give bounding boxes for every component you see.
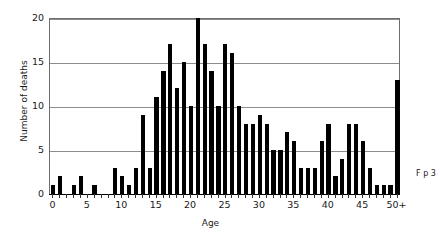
x-tick <box>266 194 267 198</box>
bar <box>203 44 207 194</box>
bar <box>127 185 131 194</box>
x-tick <box>314 194 315 198</box>
x-tick <box>321 194 322 198</box>
bar <box>196 18 200 194</box>
bar <box>299 168 303 194</box>
x-tick <box>190 194 191 198</box>
x-tick <box>176 194 177 198</box>
x-tick <box>280 194 281 198</box>
x-tick <box>231 194 232 198</box>
bar <box>72 185 76 194</box>
x-tick <box>87 194 88 198</box>
bar <box>375 185 379 194</box>
bar <box>306 168 310 194</box>
x-tick <box>335 194 336 198</box>
bar <box>361 141 365 194</box>
x-tick <box>307 194 308 198</box>
y-tick-label: 0 <box>18 189 44 199</box>
bar <box>223 44 227 194</box>
y-tick-label: 15 <box>18 57 44 67</box>
x-tick <box>163 194 164 198</box>
bar <box>354 124 358 194</box>
x-tick <box>218 194 219 198</box>
x-tick <box>286 194 287 198</box>
bar-series <box>50 19 399 194</box>
x-tick <box>128 194 129 198</box>
x-tick <box>66 194 67 198</box>
plot-area <box>49 18 400 194</box>
bar <box>216 106 220 194</box>
bar <box>230 53 234 194</box>
x-tick <box>149 194 150 198</box>
bar <box>154 97 158 194</box>
bar <box>244 124 248 194</box>
x-tick <box>259 194 260 198</box>
x-tick <box>73 194 74 198</box>
bar <box>278 150 282 194</box>
x-tick <box>390 194 391 198</box>
x-tick <box>252 194 253 198</box>
x-tick <box>94 194 95 198</box>
bar <box>134 168 138 194</box>
bar <box>333 176 337 194</box>
bar <box>347 124 351 194</box>
bar <box>182 62 186 194</box>
x-tick <box>101 194 102 198</box>
x-tick <box>169 194 170 198</box>
bar <box>326 124 330 194</box>
bar <box>258 115 262 194</box>
y-tick-label: 20 <box>18 13 44 23</box>
x-tick <box>197 194 198 198</box>
x-tick <box>156 194 157 198</box>
bar <box>382 185 386 194</box>
x-tick <box>204 194 205 198</box>
x-tick <box>383 194 384 198</box>
bar <box>313 168 317 194</box>
x-tick <box>52 194 53 198</box>
x-tick <box>376 194 377 198</box>
x-tick <box>369 194 370 198</box>
bar <box>251 124 255 194</box>
cropped-caption: F p 3 <box>416 168 440 179</box>
x-tick <box>225 194 226 198</box>
bar <box>189 106 193 194</box>
bar <box>120 176 124 194</box>
bar <box>209 71 213 194</box>
x-tick <box>238 194 239 198</box>
x-tick <box>300 194 301 198</box>
bar <box>285 132 289 194</box>
x-tick <box>80 194 81 198</box>
x-tick <box>59 194 60 198</box>
x-tick <box>108 194 109 198</box>
x-tick <box>355 194 356 198</box>
bar <box>141 115 145 194</box>
bar <box>395 80 399 194</box>
bar <box>340 159 344 194</box>
bar <box>265 124 269 194</box>
x-tick <box>142 194 143 198</box>
x-tick <box>342 194 343 198</box>
x-tick <box>348 194 349 198</box>
bar <box>237 106 241 194</box>
bar <box>148 168 152 194</box>
bar <box>58 176 62 194</box>
bar <box>175 88 179 194</box>
x-tick <box>293 194 294 198</box>
bar <box>271 150 275 194</box>
x-tick <box>183 194 184 198</box>
x-tick <box>245 194 246 198</box>
y-tick-label: 10 <box>18 101 44 111</box>
x-tick <box>328 194 329 198</box>
bar <box>113 168 117 194</box>
x-tick <box>114 194 115 198</box>
x-axis-title: Age <box>170 218 250 228</box>
bar <box>161 71 165 194</box>
bar <box>92 185 96 194</box>
bar <box>292 141 296 194</box>
bar <box>368 168 372 194</box>
bar <box>388 185 392 194</box>
x-tick <box>135 194 136 198</box>
y-tick-label: 5 <box>18 145 44 155</box>
x-tick <box>273 194 274 198</box>
